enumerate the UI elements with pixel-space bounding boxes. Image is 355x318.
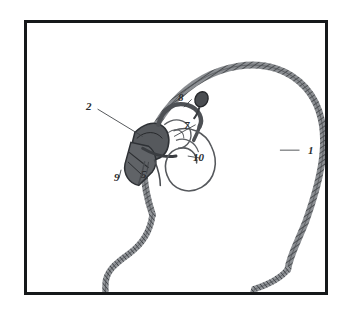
ref-label-1: 1 bbox=[308, 145, 314, 156]
ref-label-7: 7 bbox=[184, 120, 190, 131]
figure-page: 2 8 7 10 9 5 1 bbox=[0, 0, 355, 318]
ref-label-5: 5 bbox=[141, 169, 147, 180]
ref-label-10: 10 bbox=[193, 152, 204, 163]
neck-outline-path bbox=[251, 270, 288, 292]
leader-line-2 bbox=[98, 109, 143, 136]
figure-frame-border: 2 8 7 10 9 5 1 bbox=[24, 20, 328, 295]
head-outline-path bbox=[144, 65, 323, 269]
ref-label-9: 9 bbox=[114, 172, 120, 183]
face-profile-path bbox=[105, 215, 152, 292]
ref-label-2: 2 bbox=[86, 101, 92, 112]
ref-label-8: 8 bbox=[178, 92, 184, 103]
anatomical-line-drawing bbox=[27, 23, 325, 292]
